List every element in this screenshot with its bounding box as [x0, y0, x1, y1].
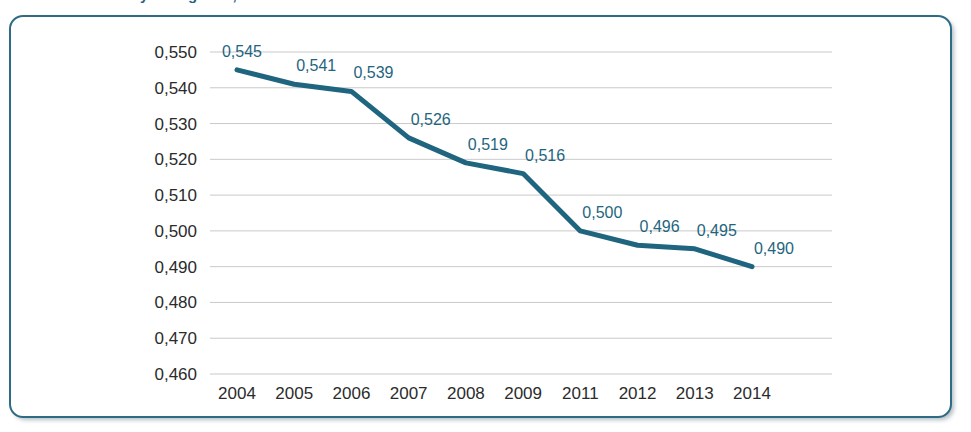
x-axis-tick-label: 2013: [676, 384, 714, 403]
data-point-label: 0,496: [640, 218, 680, 235]
gridlines-group: [210, 52, 832, 374]
data-point-labels: 0,5450,5410,5390,5260,5190,5160,5000,496…: [222, 43, 794, 257]
x-axis-tick-label: 2005: [275, 384, 313, 403]
y-axis-tick-label: 0,530: [154, 115, 197, 134]
x-axis-tick-label: 2004: [218, 384, 256, 403]
x-axis-tick-label: 2007: [390, 384, 428, 403]
x-axis-tick-label: 2006: [333, 384, 371, 403]
x-axis-tick-label: 2008: [447, 384, 485, 403]
y-axis-tick-label: 0,550: [154, 43, 197, 62]
line-chart: 0,5500,5400,5300,5200,5100,5000,4900,480…: [11, 17, 950, 416]
chart-title-text: Grafik 1. Gini katsayisi degisimi, 2004-…: [0, 0, 315, 3]
data-point-label: 0,500: [582, 204, 622, 221]
data-point-label: 0,526: [411, 111, 451, 128]
data-series-line: [237, 70, 752, 267]
y-axis-tick-label: 0,540: [154, 79, 197, 98]
chart-card: 0,5500,5400,5300,5200,5100,5000,4900,480…: [9, 15, 952, 418]
data-point-label: 0,495: [697, 222, 737, 239]
y-axis-tick-label: 0,460: [154, 365, 197, 384]
data-point-label: 0,539: [353, 64, 393, 81]
y-axis-tick-labels: 0,5500,5400,5300,5200,5100,5000,4900,480…: [154, 43, 197, 384]
y-axis-tick-label: 0,510: [154, 186, 197, 205]
data-point-label: 0,490: [754, 240, 794, 257]
x-axis-tick-label: 2009: [504, 384, 542, 403]
data-point-label: 0,516: [525, 147, 565, 164]
y-axis-tick-label: 0,480: [154, 293, 197, 312]
y-axis-tick-label: 0,470: [154, 329, 197, 348]
x-axis-tick-label: 2011: [562, 384, 599, 403]
y-axis-tick-label: 0,500: [154, 222, 197, 241]
x-axis-tick-label: 2014: [733, 384, 771, 403]
x-axis-tick-labels: 2004200520062007200820092011201220132014: [218, 384, 771, 403]
y-axis-tick-label: 0,490: [154, 258, 197, 277]
data-point-label: 0,545: [222, 43, 262, 60]
data-point-label: 0,519: [468, 136, 508, 153]
chart-plot-area: 0,5500,5400,5300,5200,5100,5000,4900,480…: [11, 17, 950, 416]
data-point-label: 0,541: [296, 57, 336, 74]
y-axis-tick-label: 0,520: [154, 150, 197, 169]
x-axis-tick-label: 2012: [619, 384, 657, 403]
chart-title-fragment: Grafik 1. Gini katsayisi degisimi, 2004-…: [0, 0, 971, 4]
